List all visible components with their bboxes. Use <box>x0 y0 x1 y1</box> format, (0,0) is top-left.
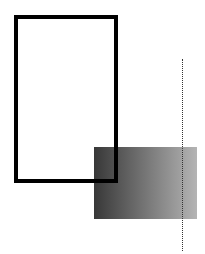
dotted-vertical-line <box>182 59 183 251</box>
outlined-rectangle <box>14 15 118 183</box>
